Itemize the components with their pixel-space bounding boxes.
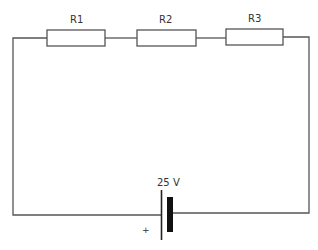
resistor-r1 xyxy=(47,30,105,46)
battery-voltage-label: 25 V xyxy=(157,177,180,188)
wire-right xyxy=(173,37,309,213)
circuit-diagram: R1 R2 R3 25 V + xyxy=(0,0,318,250)
circuit-svg: R1 R2 R3 25 V + xyxy=(0,0,318,250)
battery-negative-plate xyxy=(167,197,173,232)
label-r1: R1 xyxy=(70,14,83,25)
resistor-r3 xyxy=(226,29,283,45)
resistor-r2 xyxy=(137,30,196,46)
positive-terminal-marker: + xyxy=(142,225,150,235)
label-r3: R3 xyxy=(248,13,261,24)
wire-left xyxy=(13,38,161,215)
label-r2: R2 xyxy=(159,14,172,25)
